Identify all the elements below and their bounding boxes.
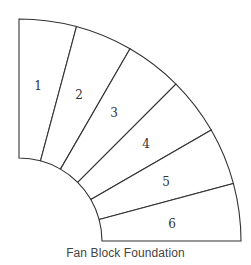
fan-block-diagram: 1 2 3 4 5 6 [0,0,251,245]
block-label-5: 5 [162,175,170,189]
block-label-6: 6 [168,217,176,231]
block-label-1: 1 [34,79,42,93]
diagram-caption: Fan Block Foundation [0,246,251,260]
block-label-3: 3 [110,106,118,120]
block-label-2: 2 [75,88,83,102]
block-label-4: 4 [142,137,150,151]
fan-blocks [19,19,241,241]
